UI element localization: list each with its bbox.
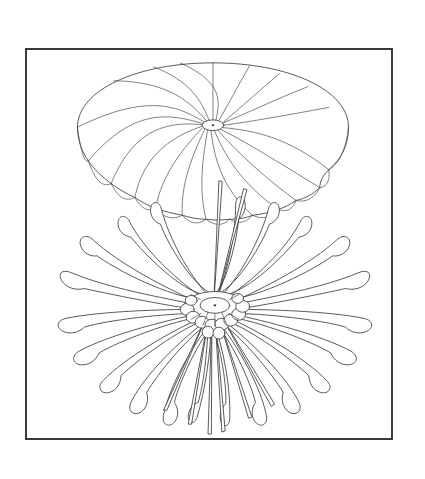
figure-inflated-canopy	[77, 63, 348, 225]
spread-gore	[60, 271, 200, 310]
figure-frame	[25, 48, 393, 440]
line-drawing-canvas	[27, 50, 391, 438]
hub-fold	[213, 327, 225, 339]
canopy-vent-center-dot	[212, 124, 215, 126]
drawing-page	[0, 0, 425, 479]
spread-canopy-hub	[180, 292, 249, 340]
hub-fold	[202, 326, 214, 338]
hub-vent-center-dot	[214, 304, 217, 306]
spread-gore	[230, 271, 370, 310]
